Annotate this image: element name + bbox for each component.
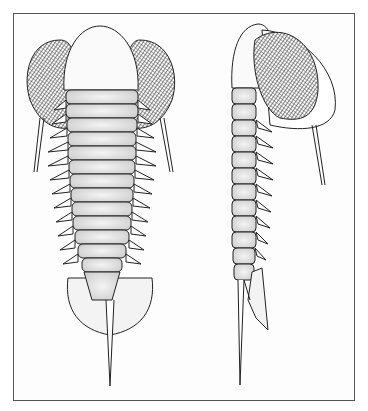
illustration (0, 0, 368, 411)
lateral-tail-spine (238, 280, 244, 385)
tail-spine (106, 300, 114, 386)
dorsal-view (27, 26, 175, 386)
lateral-view (232, 24, 336, 385)
head-shield (64, 26, 138, 90)
lateral-segments (232, 88, 256, 280)
body-segments (66, 90, 138, 300)
lateral-limbs (255, 120, 273, 260)
lateral-tail-fin (248, 268, 268, 330)
lateral-eye (254, 32, 318, 119)
